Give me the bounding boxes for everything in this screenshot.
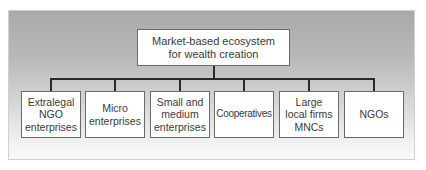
child-connector-2 [114, 78, 116, 91]
child-connector-5 [308, 78, 310, 91]
root-node-market-based-ecosystem: Market-based ecosystem for wealth creati… [137, 29, 290, 66]
child-node-cooperatives: Cooperatives [214, 91, 274, 138]
child-connector-1 [50, 78, 52, 91]
root-connector-vertical [213, 65, 215, 79]
child-node-extralegal-ngo-enterprises: Extralegal NGO enterprises [21, 91, 81, 138]
root-node-label: Market-based ecosystem for wealth creati… [152, 35, 275, 61]
child-node-small-medium-enterprises: Small and medium enterprises [150, 91, 210, 138]
child-node-label: Micro enterprises [89, 102, 141, 127]
child-node-ngos: NGOs [344, 91, 404, 138]
child-connector-6 [373, 78, 375, 91]
child-node-label: Small and medium enterprises [154, 96, 206, 134]
child-node-label: Large local firms MNCs [285, 96, 332, 134]
child-node-label: Cooperatives [216, 108, 271, 121]
child-node-micro-enterprises: Micro enterprises [85, 91, 145, 138]
sibling-connector-horizontal [50, 78, 375, 80]
child-node-label: NGOs [359, 108, 388, 121]
child-node-label: Extralegal NGO enterprises [25, 96, 77, 134]
child-node-large-local-firms-mncs: Large local firms MNCs [279, 91, 339, 138]
child-connector-4 [243, 78, 245, 91]
child-connector-3 [179, 78, 181, 91]
